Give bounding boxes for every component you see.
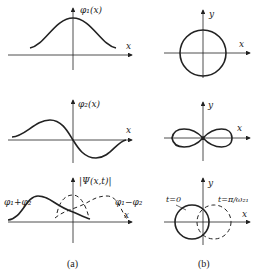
y-label: y [208, 9, 215, 19]
caption-b: (b) [198, 258, 210, 270]
sum-curve-label: φ₁+φ₂ [4, 197, 32, 207]
psi-abs-label: |Ψ(x,t)| [79, 176, 112, 187]
phi2-label: φ₂(x) [78, 99, 100, 109]
figure: φ₁(x) x φ₂(x) x |Ψ(x,t)| φ₁+φ₂ φ₁−φ₂ x y… [0, 0, 263, 276]
y-label: y [207, 100, 214, 110]
x-label: x [124, 210, 129, 220]
x-label: x [239, 39, 244, 49]
phi1-label: φ₁(x) [80, 5, 102, 15]
phi2-plot: φ₂(x) x [8, 99, 132, 163]
diff-curve-label: φ₁−φ₂ [115, 197, 143, 207]
t0-label: t=0 [166, 195, 181, 204]
t1-label: t=π/ω₂₁ [218, 195, 249, 204]
x-label: x [237, 123, 242, 133]
psi-plot: |Ψ(x,t)| φ₁+φ₂ φ₁−φ₂ x [4, 176, 143, 243]
oscillating-orbit: y t=0 t=π/ω₂₁ x [164, 178, 250, 245]
figure-eight-orbit: y x [164, 100, 250, 161]
x-label: x [126, 125, 131, 135]
x-label: x [242, 209, 247, 219]
phi1-plot: φ₁(x) x [8, 5, 132, 70]
circle-orbit: y x [164, 9, 250, 78]
x-label: x [126, 41, 131, 51]
y-label: y [207, 178, 214, 188]
caption-a: (a) [67, 258, 78, 270]
